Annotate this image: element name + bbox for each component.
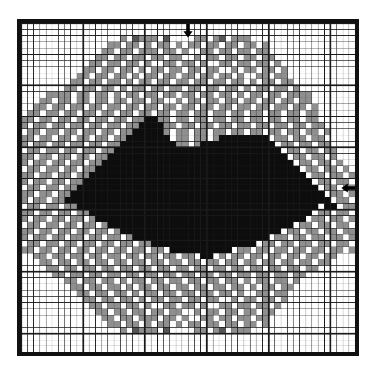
needlepoint-chart-root (0, 0, 377, 381)
chart-grid-frame (17, 19, 359, 356)
pattern-grid-canvas[interactable] (21, 23, 355, 352)
